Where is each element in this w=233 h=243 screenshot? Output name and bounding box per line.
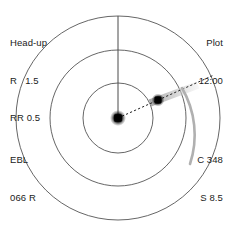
ebl-label: EBL xyxy=(10,154,36,167)
speed-readout: S 8.5 xyxy=(197,192,223,205)
status-top-right: Plot 12:00 xyxy=(199,12,223,112)
echo-arc xyxy=(182,88,195,164)
ebl-bearing-readout: 066 R xyxy=(10,192,36,205)
clock-readout: 12:00 xyxy=(199,75,223,88)
target-echo-marker[interactable] xyxy=(155,97,162,104)
course-readout: C 348 xyxy=(197,154,223,167)
radar-display: Head-up R 1.5 RR 0.5 Plot 12:00 EBL 066 … xyxy=(0,0,233,243)
plot-mode-label: Plot xyxy=(199,37,223,50)
range-readout: R 1.5 xyxy=(10,75,47,88)
status-bottom-right: C 348 S 8.5 xyxy=(197,129,223,229)
ring-range-readout: RR 0.5 xyxy=(10,112,47,125)
status-bottom-left: EBL 066 R xyxy=(10,129,36,229)
orientation-mode-label: Head-up xyxy=(10,37,47,50)
own-ship-marker[interactable] xyxy=(114,114,122,122)
